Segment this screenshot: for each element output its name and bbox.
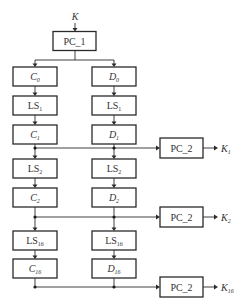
left-column: C0 LS1 C1 LS2 C2 LS16 C16 bbox=[13, 67, 57, 278]
ls16-left-box: LS16 bbox=[13, 231, 57, 250]
ls16-right-box: LS16 bbox=[92, 231, 136, 250]
c1-box: C1 bbox=[13, 125, 57, 144]
vertical-connectors bbox=[33, 86, 117, 287]
pc1-label: PC_1 bbox=[63, 36, 85, 47]
input-key-label: K bbox=[71, 11, 80, 22]
pc2-label: PC_2 bbox=[170, 282, 192, 293]
subkey-k2-label: K2 bbox=[220, 212, 231, 224]
right-column: D0 LS1 D1 LS2 D2 LS16 D16 bbox=[92, 67, 136, 278]
d2-box: D2 bbox=[92, 188, 136, 207]
subkey-k1-label: K1 bbox=[220, 143, 231, 155]
c2-box: C2 bbox=[13, 188, 57, 207]
subkey-k16-label: K16 bbox=[220, 282, 234, 294]
pc2-round-2: PC_2 K2 bbox=[33, 207, 230, 227]
pc2-round-16: PC_2 K16 bbox=[33, 277, 233, 297]
d1-box: D1 bbox=[92, 125, 136, 144]
c0-box: C0 bbox=[13, 67, 57, 86]
d0-box: D0 bbox=[92, 67, 136, 86]
d16-box: D16 bbox=[92, 259, 136, 278]
ls1-left-box: LS1 bbox=[13, 96, 57, 115]
c16-box: C16 bbox=[13, 259, 57, 278]
pc2-label: PC_2 bbox=[170, 143, 192, 154]
des-key-schedule-diagram: K PC_1 C0 LS1 C1 LS2 C2 bbox=[0, 0, 243, 307]
ls1-right-box: LS1 bbox=[92, 96, 136, 115]
pc1-box: PC_1 bbox=[53, 32, 96, 51]
ls2-right-box: LS2 bbox=[92, 159, 136, 178]
pc2-label: PC_2 bbox=[170, 212, 192, 223]
ls2-left-box: LS2 bbox=[13, 159, 57, 178]
